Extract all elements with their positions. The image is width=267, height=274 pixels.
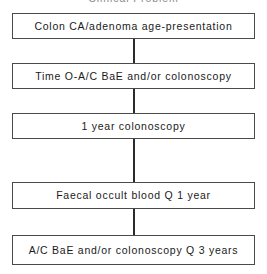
- flow-node-time-o-ac-bae-colonoscopy: Time O-A/C BaE and/or colonoscopy: [12, 63, 255, 89]
- flow-node-label: Time O-A/C BaE and/or colonoscopy: [35, 71, 232, 82]
- flow-connector-2: [133, 89, 135, 113]
- flow-node-label: Colon CA/adenoma age-presentation: [34, 21, 232, 32]
- flow-node-label: 1 year colonoscopy: [82, 121, 186, 132]
- flow-node-faecal-occult-blood-q-1-year: Faecal occult blood Q 1 year: [12, 182, 255, 209]
- flow-connector-3: [133, 139, 135, 182]
- flow-node-colon-ca-adenoma-age-presentation: Colon CA/adenoma age-presentation: [12, 13, 255, 39]
- flow-node-1-year-colonoscopy: 1 year colonoscopy: [12, 113, 255, 139]
- flow-node-label: A/C BaE and/or colonoscopy Q 3 years: [29, 245, 239, 256]
- flow-connector-4: [133, 209, 135, 235]
- figure-caption-text: Clinical Problem: [0, 0, 267, 4]
- flow-connector-1: [133, 39, 135, 63]
- flow-node-ac-bae-colonoscopy-q-3-years: A/C BaE and/or colonoscopy Q 3 years: [12, 235, 255, 265]
- figure-caption-clipped: Clinical Problem: [0, 0, 267, 4]
- flow-node-label: Faecal occult blood Q 1 year: [56, 190, 211, 201]
- flowchart-diagram: Clinical Problem Colon CA/adenoma age-pr…: [0, 0, 267, 274]
